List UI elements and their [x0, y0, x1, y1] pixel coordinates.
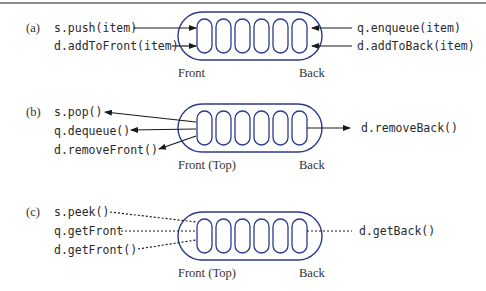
op-d-addToFront: d.addToFront(item): [54, 39, 179, 53]
op-s-peek: s.peek(): [54, 205, 109, 219]
panel-b-label: (b): [26, 105, 41, 119]
panel-c-slots: [197, 219, 307, 253]
op-d-getBack: d.getBack(): [359, 224, 435, 238]
panel-c-capsule: [178, 212, 322, 260]
op-d-removeBack: d.removeBack(): [361, 121, 458, 135]
op-s-pop: s.pop(): [54, 105, 102, 119]
dotted-getFront-d: [138, 240, 196, 249]
panel-c-front-label: Front (Top): [178, 266, 236, 280]
op-q-getFront: q.getFront: [54, 224, 123, 238]
dotted-peek: [110, 212, 196, 222]
op-s-push: s.push(item): [54, 21, 137, 35]
arrow-removeFront: [159, 136, 196, 149]
arrow-dequeue: [131, 129, 196, 130]
op-d-removeFront: d.removeFront(): [54, 143, 158, 157]
panel-b-front-label: Front (Top): [178, 158, 236, 172]
panel-c-label: (c): [26, 205, 40, 219]
panel-a-slots: [197, 19, 307, 53]
panel-a-front-label: Front: [178, 66, 205, 80]
panel-a-capsule: [178, 12, 322, 60]
panel-a-label: (a): [26, 21, 40, 35]
op-q-enqueue: q.enqueue(item): [357, 21, 461, 35]
panel-b-capsule: [178, 104, 322, 152]
panel-b-slots: [197, 111, 307, 145]
panel-b-back-label: Back: [299, 158, 325, 172]
op-q-dequeue: q.dequeue(): [54, 124, 130, 138]
panel-a-back-label: Back: [299, 66, 325, 80]
op-d-getFront: d.getFront(): [54, 243, 137, 257]
panel-c-back-label: Back: [299, 266, 325, 280]
op-d-addToBack: d.addToBack(item): [357, 39, 475, 53]
